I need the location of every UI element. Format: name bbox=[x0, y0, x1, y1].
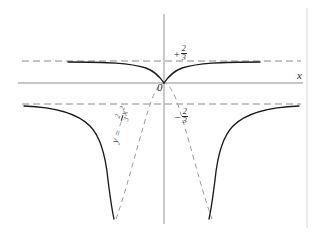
fraction-denominator: 3 bbox=[181, 53, 187, 62]
origin-label: 0 bbox=[157, 82, 163, 93]
asymptote-negative-label: − 2 3 bbox=[174, 108, 188, 126]
fraction-denominator: 3 bbox=[182, 116, 188, 125]
fraction-numerator: 2 bbox=[182, 108, 188, 116]
fraction-numerator: 2 bbox=[181, 45, 187, 53]
asymptote-negative-sign: − bbox=[174, 111, 181, 123]
asymptote-negative-fraction: 2 3 bbox=[182, 108, 188, 126]
math-figure: + 2 3 − 2 3 0 x y = − 2 3 x2 bbox=[0, 0, 320, 235]
curve-upper-right-branch bbox=[164, 62, 260, 83]
curve-lower-right-branch bbox=[209, 106, 299, 219]
asymptote-positive-label: + 2 3 bbox=[173, 45, 187, 63]
curve-upper-left-branch bbox=[68, 62, 164, 83]
asymptote-positive-fraction: 2 3 bbox=[181, 45, 187, 63]
x-axis-label: x bbox=[297, 70, 302, 81]
figure-canvas bbox=[0, 0, 320, 235]
asymptote-positive-sign: + bbox=[173, 48, 180, 60]
curve-lower-left-branch bbox=[24, 106, 114, 219]
